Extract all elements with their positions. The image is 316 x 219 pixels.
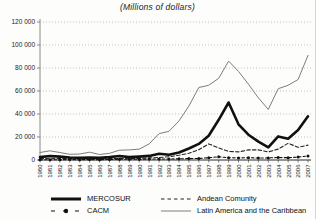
svg-text:1986: 1986 bbox=[97, 164, 103, 178]
svg-text:0: 0 bbox=[31, 156, 35, 163]
svg-text:1993: 1993 bbox=[166, 164, 172, 178]
lac-thin-line-swatch bbox=[160, 207, 192, 215]
svg-text:1985: 1985 bbox=[87, 164, 93, 178]
svg-text:2001: 2001 bbox=[246, 164, 252, 178]
svg-text:2004: 2004 bbox=[276, 164, 282, 178]
legend-item-cacm: CACM bbox=[50, 206, 156, 216]
svg-text:1990: 1990 bbox=[137, 164, 143, 178]
chart-legend: MERCOSUR Andean Comunity CACM Latin Amer… bbox=[50, 193, 306, 217]
svg-text:2000: 2000 bbox=[236, 164, 242, 178]
svg-text:80 000: 80 000 bbox=[15, 64, 35, 71]
svg-text:1994: 1994 bbox=[176, 164, 182, 178]
svg-text:1996: 1996 bbox=[196, 164, 202, 178]
svg-text:2006: 2006 bbox=[295, 164, 301, 178]
svg-text:1998: 1998 bbox=[216, 164, 222, 178]
legend-label: CACM bbox=[87, 206, 109, 216]
svg-text:1981: 1981 bbox=[47, 164, 53, 178]
svg-text:60 000: 60 000 bbox=[15, 87, 35, 94]
svg-text:1991: 1991 bbox=[147, 164, 153, 178]
svg-text:1982: 1982 bbox=[57, 164, 63, 178]
cacm-dash-dot-line-swatch bbox=[50, 207, 82, 215]
svg-text:40 000: 40 000 bbox=[15, 110, 35, 117]
svg-text:1988: 1988 bbox=[117, 164, 123, 178]
legend-item-mercosur: MERCOSUR bbox=[50, 194, 156, 204]
line-chart-plot-area: 020 00040 00060 00080 000100 000120 0001… bbox=[0, 0, 315, 188]
andean-dashed-line-swatch bbox=[160, 195, 192, 203]
legend-item-andean-community: Andean Comunity bbox=[160, 194, 306, 204]
svg-text:1999: 1999 bbox=[226, 164, 232, 178]
mercosur-thick-line-swatch bbox=[50, 195, 82, 203]
svg-text:2007: 2007 bbox=[305, 164, 311, 178]
svg-text:1983: 1983 bbox=[67, 164, 73, 178]
svg-text:1980: 1980 bbox=[37, 164, 43, 178]
svg-text:20 000: 20 000 bbox=[15, 133, 35, 140]
svg-text:120 000: 120 000 bbox=[12, 18, 36, 25]
svg-text:2002: 2002 bbox=[256, 164, 262, 178]
svg-text:1992: 1992 bbox=[157, 164, 163, 178]
legend-label: Andean Comunity bbox=[197, 194, 257, 204]
legend-label: Latin America and the Caribbean bbox=[197, 206, 306, 216]
svg-text:1995: 1995 bbox=[186, 164, 192, 178]
svg-text:100 000: 100 000 bbox=[12, 41, 36, 48]
svg-text:2005: 2005 bbox=[286, 164, 292, 178]
svg-text:1989: 1989 bbox=[127, 164, 133, 178]
svg-text:1997: 1997 bbox=[206, 164, 212, 178]
svg-text:2003: 2003 bbox=[266, 164, 272, 178]
legend-item-latin-america-caribbean: Latin America and the Caribbean bbox=[160, 206, 306, 216]
legend-label: MERCOSUR bbox=[87, 194, 131, 204]
svg-text:1987: 1987 bbox=[107, 164, 113, 178]
chart-panel: (Millions of dollars) 020 00040 00060 00… bbox=[0, 0, 315, 219]
svg-text:1984: 1984 bbox=[77, 164, 83, 178]
